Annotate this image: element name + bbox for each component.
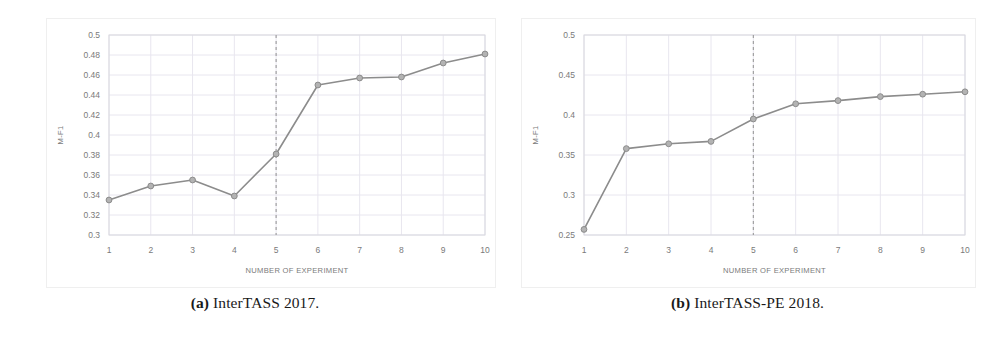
y-tick-label: 0.3 [563,190,575,200]
data-point-marker [440,60,446,66]
x-tick-label: 9 [920,245,925,255]
x-tick-label: 10 [480,245,490,255]
y-tick-label: 0.32 [83,210,100,220]
y-tick-label: 0.34 [83,190,100,200]
line-chart-intertass-pe-2018: 0.250.30.350.40.450.512345678910NUMBER O… [522,19,975,287]
x-tick-label: 4 [232,245,237,255]
x-tick-label: 8 [399,245,404,255]
y-tick-label: 0.46 [83,70,100,80]
data-point-marker [231,193,237,199]
data-point-marker [623,146,629,152]
x-tick-label: 6 [316,245,321,255]
data-point-marker [708,139,714,145]
plot-area: 0.30.320.340.360.380.40.420.440.460.480.… [83,30,490,255]
x-tick-label: 5 [751,245,756,255]
y-tick-label: 0.35 [558,150,575,160]
y-tick-label: 0.44 [83,90,100,100]
x-tick-label: 10 [960,245,970,255]
data-series-line [584,92,965,230]
y-axis-title: M-F1 [56,126,65,145]
x-axis-title: NUMBER OF EXPERIMENT [245,266,348,275]
x-tick-label: 1 [582,245,587,255]
x-tick-label: 9 [441,245,446,255]
subfigure-b-caption: (b) InterTASS-PE 2018. [671,294,824,312]
plot-area: 0.250.30.350.40.450.512345678910 [558,30,970,255]
subfigure-a-caption-text: InterTASS 2017. [213,294,319,311]
subfigure-a-tag: (a) [191,294,209,311]
data-point-marker [399,74,405,80]
data-point-marker [835,98,841,104]
chart-panel-intertass-pe-2018: 0.250.30.350.40.450.512345678910NUMBER O… [521,18,976,288]
subfigure-b-caption-text: InterTASS-PE 2018. [694,294,824,311]
y-tick-label: 0.48 [83,50,100,60]
data-point-marker [148,183,154,189]
y-tick-label: 0.45 [558,70,575,80]
y-tick-label: 0.42 [83,110,100,120]
x-tick-label: 2 [148,245,153,255]
y-tick-label: 0.25 [558,230,575,240]
data-point-marker [357,75,363,81]
subfigure-a: 0.30.320.340.360.380.40.420.440.460.480.… [0,0,500,312]
x-tick-label: 3 [666,245,671,255]
data-point-marker [190,177,196,183]
subfigure-a-caption: (a) InterTASS 2017. [191,294,320,312]
data-point-marker [962,89,968,95]
x-tick-label: 7 [836,245,841,255]
data-point-marker [877,94,883,100]
x-tick-label: 6 [793,245,798,255]
line-chart-intertass-2017: 0.30.320.340.360.380.40.420.440.460.480.… [47,19,495,287]
data-point-marker [482,51,488,57]
subfigure-b-tag: (b) [671,294,690,311]
data-point-marker [793,101,799,107]
y-tick-label: 0.4 [563,110,575,120]
data-point-marker [666,141,672,147]
y-tick-label: 0.38 [83,150,100,160]
y-tick-label: 0.36 [83,170,100,180]
y-tick-label: 0.5 [88,30,100,40]
y-axis-title: M-F1 [531,126,540,145]
x-axis-title: NUMBER OF EXPERIMENT [723,266,826,275]
x-tick-label: 7 [357,245,362,255]
x-tick-label: 2 [624,245,629,255]
chart-panel-intertass-2017: 0.30.320.340.360.380.40.420.440.460.480.… [46,18,496,288]
x-tick-label: 3 [190,245,195,255]
data-point-marker [273,151,279,157]
plot-frame [584,35,965,235]
x-tick-label: 8 [878,245,883,255]
y-tick-label: 0.3 [88,230,100,240]
data-point-marker [315,82,321,88]
subfigure-b: 0.250.30.350.40.450.512345678910NUMBER O… [500,0,989,312]
x-tick-label: 4 [709,245,714,255]
x-tick-label: 5 [274,245,279,255]
x-tick-label: 1 [107,245,112,255]
y-tick-label: 0.4 [88,130,100,140]
data-point-marker [106,197,112,203]
data-point-marker [920,91,926,97]
y-tick-label: 0.5 [563,30,575,40]
data-point-marker [581,227,587,233]
data-series-line [109,54,485,200]
data-point-marker [750,116,756,122]
figure-row: 0.30.320.340.360.380.40.420.440.460.480.… [0,0,989,351]
